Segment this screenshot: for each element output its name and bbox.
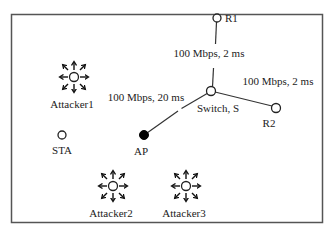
network-diagram: 100 Mbps, 2 ms 100 Mbps, 2 ms 100 Mbps, …: [0, 0, 333, 233]
node-attacker2: Attacker2: [89, 171, 132, 219]
node-attacker1: Attacker1: [50, 62, 93, 110]
link-label-r1-switch: 100 Mbps, 2 ms: [174, 47, 245, 59]
node-switch: Switch, S: [197, 87, 239, 115]
node-label-r2: R2: [263, 117, 276, 129]
link-label-ap-switch: 100 Mbps, 20 ms: [108, 91, 184, 103]
node-r2: R2: [263, 104, 281, 130]
node-sta: STA: [52, 131, 72, 156]
router-icon: [272, 104, 281, 113]
node-label-switch: Switch, S: [197, 102, 239, 114]
attacker-broadcast-icon: [172, 171, 200, 201]
attacker-broadcast-icon: [99, 171, 127, 201]
node-ap: AP: [134, 131, 149, 158]
node-label-attacker1: Attacker1: [50, 98, 93, 110]
node-label-sta: STA: [52, 144, 72, 156]
access-point-icon: [140, 131, 149, 140]
node-attacker3: Attacker3: [162, 171, 206, 219]
node-r1: R1: [213, 12, 238, 24]
node-label-ap: AP: [134, 145, 148, 157]
node-label-attacker2: Attacker2: [89, 207, 132, 219]
link-label-switch-r2: 100 Mbps, 2 ms: [243, 75, 314, 87]
station-icon: [58, 131, 66, 139]
node-label-r1: R1: [225, 12, 238, 24]
attacker-broadcast-icon: [60, 62, 88, 92]
switch-icon: [207, 87, 216, 96]
router-icon: [213, 14, 221, 22]
node-label-attacker3: Attacker3: [162, 207, 206, 219]
